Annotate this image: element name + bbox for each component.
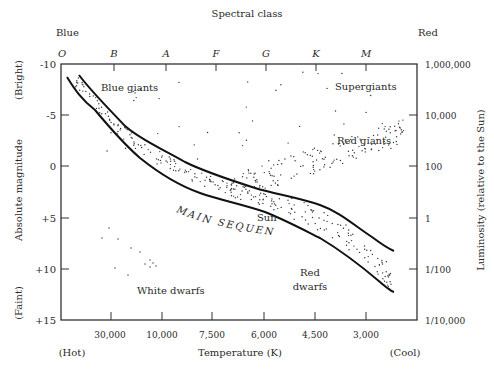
cool-label: (Cool) (390, 347, 421, 358)
right-axis-title: Luminosity (relative to the Sun) (475, 109, 486, 271)
left-ticks (61, 115, 69, 269)
left-axis-title: Absolute magnitude (13, 139, 24, 242)
red-label: Red (418, 27, 438, 38)
main-sequence-label: MAIN SEQUENCE (0, 0, 276, 237)
red-dwarfs-label-line2: dwarfs (293, 281, 328, 292)
blue-giants-label: Blue giants (101, 82, 158, 93)
temp-tick: 30,000 (94, 330, 126, 340)
lum-tick: 1/10,000 (425, 316, 466, 326)
lum-tick: 10,000 (425, 111, 457, 121)
sun-label: Sun (257, 212, 277, 223)
white-dwarfs-label: White dwarfs (137, 285, 205, 296)
bottom-ticks (111, 312, 366, 320)
spectral-class-o: O (58, 48, 66, 59)
mag-tick: +15 (35, 315, 56, 326)
lum-tick: 1 (425, 214, 431, 224)
red-dwarfs-label-line1: Red (300, 267, 320, 278)
supergiants-label: Supergiants (335, 81, 397, 92)
lum-tick: 100 (425, 162, 442, 172)
lum-tick: 1/100 (425, 265, 451, 275)
red-giants-label: Red giants (337, 135, 391, 146)
bright-label: (Bright) (13, 60, 24, 100)
main-sequence-lower-boundary (67, 77, 394, 292)
main-sequence-text: MAIN SEQUENCE (0, 0, 276, 237)
right-axis-ticks: 1,000,000 10,000 100 1 1/100 1/10,000 (425, 60, 471, 326)
spectral-class-k: K (311, 48, 320, 59)
left-axis-ticks: -10 -5 0 +5 +10 +15 (35, 59, 56, 326)
temp-tick: 4,500 (302, 330, 328, 340)
top-ticks (114, 64, 366, 71)
spectral-class-f: F (212, 48, 221, 59)
blue-label: Blue (56, 27, 79, 38)
mag-tick: -10 (40, 59, 56, 70)
bottom-axis-ticks: 30,000 10,000 7,500 6,000 4,500 3,000 (94, 330, 379, 340)
temp-tick: 6,000 (251, 330, 277, 340)
spectral-class-ticks: O B A F G K M (58, 48, 372, 59)
plot-frame (61, 64, 417, 320)
mag-tick: 0 (50, 161, 56, 172)
bottom-axis-title: Temperature (K) (198, 347, 282, 358)
spectral-class-m: M (360, 48, 372, 59)
temp-tick: 7,500 (199, 330, 225, 340)
mag-tick: -5 (46, 110, 56, 121)
lum-tick: 1,000,000 (425, 60, 471, 70)
spectral-class-g: G (262, 48, 270, 59)
spectral-class-a: A (161, 48, 169, 59)
right-ticks (409, 115, 417, 269)
mag-tick: +10 (35, 264, 56, 275)
star-dots (75, 72, 404, 290)
hot-label: (Hot) (59, 347, 86, 358)
temp-tick: 10,000 (146, 330, 178, 340)
faint-label: (Faint) (13, 286, 24, 320)
hr-diagram: Spectral class Blue Red O B A F G K M (0, 0, 494, 372)
mag-tick: +5 (41, 213, 56, 224)
temp-tick: 3,000 (353, 330, 379, 340)
spectral-class-title: Spectral class (212, 8, 283, 19)
spectral-class-b: B (109, 48, 117, 59)
